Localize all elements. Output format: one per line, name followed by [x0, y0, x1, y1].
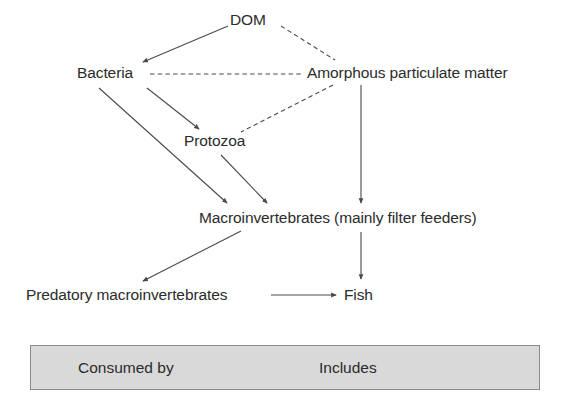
node-protozoa: Protozoa — [184, 132, 245, 150]
node-bacteria: Bacteria — [77, 64, 133, 82]
edge-bacteria-to-protozoa — [147, 88, 199, 129]
node-amorphous-particulate-matter: Amorphous particulate matter — [307, 64, 508, 82]
node-dom: DOM — [230, 11, 266, 29]
edge-amorphous-to-protozoa — [241, 85, 333, 132]
node-fish: Fish — [344, 286, 373, 304]
edge-macroinvertebrates-to-predatory — [143, 231, 241, 281]
diagram-page: DOM Bacteria Amorphous particulate matte… — [0, 0, 578, 408]
edge-protozoa-to-macroinvertebrates — [221, 155, 267, 203]
edge-dom-to-amorphous — [281, 26, 335, 60]
legend-consumed-by-label: Consumed by — [78, 359, 174, 377]
edge-dom-to-bacteria — [143, 26, 228, 62]
node-macroinvertebrates: Macroinvertebrates (mainly filter feeder… — [199, 209, 476, 227]
legend-includes-label: Includes — [319, 359, 377, 377]
node-predatory-macroinvertebrates: Predatory macroinvertebrates — [26, 286, 227, 304]
